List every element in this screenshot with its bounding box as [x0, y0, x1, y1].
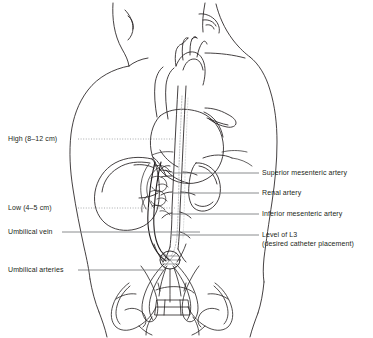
pelvic-bones-group: [111, 283, 232, 335]
umbilical-arteries-group: [141, 244, 199, 322]
label-inferior-mesenteric-artery: Inferior mesenteric artery: [262, 209, 342, 218]
label-high: High (8–12 cm): [8, 134, 57, 143]
heart-group: [150, 37, 236, 184]
label-umbilical-arteries: Umbilical arteries: [8, 265, 63, 274]
thigh-outline-group: [99, 312, 258, 337]
umbilical-catheter-diagram: High (8–12 cm) Low (4–5 cm) Umbilical ve…: [0, 0, 373, 338]
mesenteric-vessels-group: [141, 164, 170, 215]
label-level-of-l3-detail: (desired catheter placement): [262, 239, 354, 248]
label-low: Low (4–5 cm): [8, 203, 52, 212]
label-superior-mesenteric-artery: Superior mesenteric artery: [262, 168, 347, 177]
label-umbilical-vein: Umbilical vein: [8, 227, 53, 236]
label-level-of-l3: Level of L3: [262, 230, 297, 239]
label-renal-artery: Renal artery: [262, 188, 301, 197]
umbilicus-group: [160, 251, 180, 269]
